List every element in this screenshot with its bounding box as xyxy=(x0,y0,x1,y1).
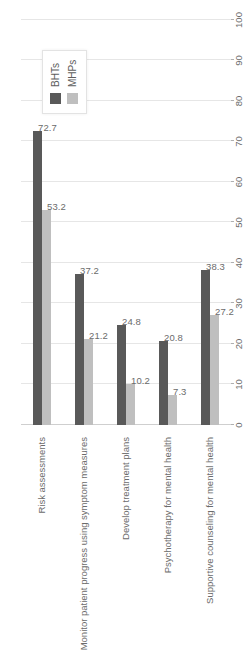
bar-row: 24.8 xyxy=(117,20,126,425)
value-tick-label: 30 xyxy=(233,298,244,309)
value-tick-mark xyxy=(231,141,234,142)
value-tick-label: 60 xyxy=(233,177,244,188)
value-tick-label: 50 xyxy=(233,217,244,228)
value-tick-label: 20 xyxy=(233,339,244,350)
chart-figure-rotator: Risk assessmentsMonitor patient progress… xyxy=(0,0,251,671)
grouped-bar-chart: Risk assessmentsMonitor patient progress… xyxy=(0,0,251,671)
bar-mhps[interactable] xyxy=(126,384,135,425)
bar-bhts[interactable] xyxy=(75,274,84,425)
legend-item-label: MHPs xyxy=(67,60,78,87)
bar-bhts[interactable] xyxy=(117,325,126,425)
value-tick-mark xyxy=(231,222,234,223)
light-gray-swatch-icon xyxy=(67,93,78,104)
value-tick-mark xyxy=(231,181,234,182)
value-tick-mark xyxy=(231,60,234,61)
value-tick-mark xyxy=(231,19,234,20)
bar-mhps[interactable] xyxy=(84,339,93,425)
bar-mhps[interactable] xyxy=(42,210,51,425)
legend-item-label: BHTs xyxy=(50,63,61,87)
legend-item: MHPs xyxy=(67,60,78,104)
bar-group: 24.810.2 xyxy=(105,20,147,425)
value-tick-label: 10 xyxy=(233,379,244,390)
bar-mhps[interactable] xyxy=(210,315,219,425)
category-label: Psychotherapy for mental health xyxy=(163,437,173,573)
bar-row: 27.2 xyxy=(210,20,219,425)
bar-bhts[interactable] xyxy=(159,341,168,425)
legend-item: BHTs xyxy=(50,60,61,104)
value-tick-label: 90 xyxy=(233,55,244,66)
value-tick-mark xyxy=(231,262,234,263)
bar-row: 10.2 xyxy=(126,20,135,425)
bar-row: 72.7 xyxy=(33,20,42,425)
value-tick-mark xyxy=(231,384,234,385)
bar-bhts[interactable] xyxy=(33,131,42,425)
value-tick-label: 70 xyxy=(233,136,244,147)
bar-mhps[interactable] xyxy=(168,395,177,425)
bar-row: 20.8 xyxy=(159,20,168,425)
value-tick-label: 40 xyxy=(233,258,244,269)
bar-value-label: 7.3 xyxy=(173,386,187,397)
value-tick-mark xyxy=(231,303,234,304)
bar-value-label: 27.2 xyxy=(215,305,234,316)
bar-bhts[interactable] xyxy=(201,270,210,425)
bar-row: 7.3 xyxy=(168,20,177,425)
value-tick-mark xyxy=(231,343,234,344)
value-axis-labels: 0102030405060708090100 xyxy=(233,20,251,425)
category-label: Monitor patient progress using symptom m… xyxy=(79,437,89,650)
value-tick-label: 100 xyxy=(233,12,244,28)
dark-gray-swatch-icon xyxy=(50,93,61,104)
category-label: Risk assessments xyxy=(37,437,47,514)
category-axis-labels: Risk assessmentsMonitor patient progress… xyxy=(21,431,231,671)
value-tick-label: 0 xyxy=(233,422,244,427)
category-label: Develop treatment plans xyxy=(121,437,131,540)
value-tick-label: 80 xyxy=(233,96,244,107)
bar-group: 20.87.3 xyxy=(147,20,189,425)
value-tick-mark xyxy=(231,424,234,425)
bar-row: 38.3 xyxy=(201,20,210,425)
chart-legend: BHTs MHPs xyxy=(42,50,87,114)
value-tick-mark xyxy=(231,100,234,101)
category-label: Supportive counseling for mental health xyxy=(205,437,215,604)
bar-group: 38.327.2 xyxy=(189,20,231,425)
